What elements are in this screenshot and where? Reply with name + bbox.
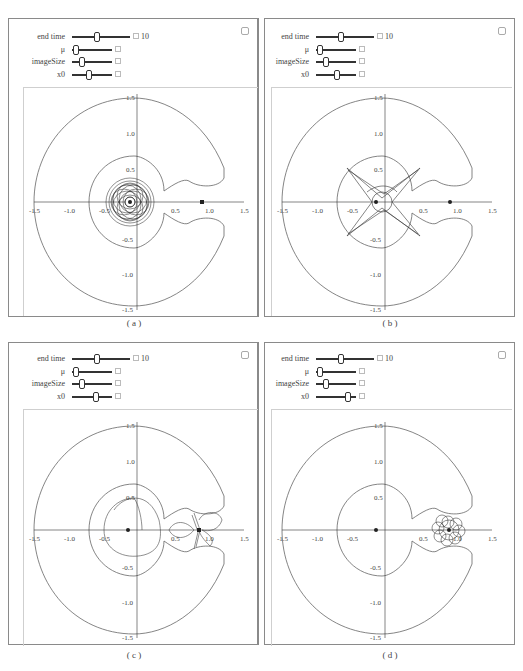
- end-time-value: 10: [141, 353, 149, 365]
- image-size-slider[interactable]: [316, 383, 356, 385]
- expand-button[interactable]: [115, 58, 121, 64]
- orbit-plot: -1.5 -1.0 -0.5 0.5 1.0 1.5 1.5 1.0 0.5 -…: [24, 410, 258, 646]
- x0-slider[interactable]: [316, 396, 356, 398]
- expand-button[interactable]: [359, 58, 365, 64]
- mu-label: μ: [15, 44, 65, 56]
- end-time-slider[interactable]: [316, 36, 374, 38]
- tick-label: -1.5: [370, 306, 382, 314]
- expand-button[interactable]: [359, 368, 365, 374]
- tick-label: 0.5: [419, 207, 428, 215]
- expand-button[interactable]: [133, 33, 139, 39]
- tick-label: -1.0: [370, 271, 382, 279]
- expand-button[interactable]: [359, 46, 365, 52]
- x0-label: x0: [15, 69, 65, 81]
- image-size-control: imageSize: [259, 56, 499, 68]
- x0-slider[interactable]: [72, 396, 112, 398]
- mu-control: μ: [15, 44, 255, 56]
- expand-button[interactable]: [115, 71, 121, 77]
- slider-thumb[interactable]: [86, 70, 92, 80]
- mu-control: μ: [259, 366, 499, 378]
- panel-a: end time 10 μ imageSize x0: [8, 18, 259, 317]
- tick-label: 0.5: [171, 207, 180, 215]
- expand-button[interactable]: [359, 393, 365, 399]
- slider-thumb[interactable]: [73, 45, 79, 55]
- tick-label: -0.5: [99, 535, 111, 543]
- image-size-label: imageSize: [15, 56, 65, 68]
- slider-thumb[interactable]: [94, 32, 100, 42]
- end-time-label: end time: [259, 31, 309, 43]
- slider-thumb[interactable]: [73, 367, 79, 377]
- slider-thumb[interactable]: [345, 392, 351, 402]
- image-size-slider[interactable]: [72, 383, 112, 385]
- mu-slider[interactable]: [316, 49, 356, 51]
- mu-slider[interactable]: [316, 371, 356, 373]
- tick-label: 1.0: [453, 207, 462, 215]
- x0-control: x0: [259, 69, 499, 81]
- mu-slider[interactable]: [72, 371, 112, 373]
- expand-button[interactable]: [115, 380, 121, 386]
- tick-label: -1.5: [277, 207, 289, 215]
- caption-c: ( c ): [114, 650, 154, 660]
- tick-label: -1.5: [370, 634, 382, 642]
- tick-label: -1.0: [122, 271, 134, 279]
- end-time-label: end time: [15, 353, 65, 365]
- image-size-slider[interactable]: [316, 61, 356, 63]
- end-time-slider[interactable]: [72, 36, 130, 38]
- expand-button[interactable]: [377, 355, 383, 361]
- image-size-label: imageSize: [259, 378, 309, 390]
- end-time-slider[interactable]: [316, 358, 374, 360]
- image-size-slider[interactable]: [72, 61, 112, 63]
- tick-label: 0.5: [374, 494, 383, 502]
- x0-slider[interactable]: [72, 74, 112, 76]
- expand-button[interactable]: [377, 33, 383, 39]
- tick-label: -0.5: [122, 236, 134, 244]
- slider-thumb[interactable]: [93, 392, 99, 402]
- tick-label: 1.0: [126, 130, 135, 138]
- x0-slider[interactable]: [316, 74, 356, 76]
- slider-thumb[interactable]: [338, 354, 344, 364]
- expand-button[interactable]: [115, 368, 121, 374]
- slider-thumb[interactable]: [323, 57, 329, 67]
- slider-thumb[interactable]: [323, 379, 329, 389]
- slider-thumb[interactable]: [94, 354, 100, 364]
- slider-thumb[interactable]: [334, 70, 340, 80]
- tick-label: 0.5: [126, 166, 135, 174]
- caption-b: ( b ): [370, 318, 410, 328]
- tick-label: -1.5: [29, 535, 41, 543]
- mu-label: μ: [15, 366, 65, 378]
- end-time-control: end time 10: [259, 353, 499, 365]
- slider-thumb[interactable]: [317, 367, 323, 377]
- tick-label: -1.5: [122, 634, 134, 642]
- expand-button[interactable]: [115, 393, 121, 399]
- caption-a: ( a ): [114, 318, 154, 328]
- tick-label: 1.5: [374, 94, 383, 102]
- tick-label: -0.5: [347, 207, 359, 215]
- tick-label: -1.0: [64, 535, 76, 543]
- tick-label: 1.5: [374, 422, 383, 430]
- tick-label: -0.5: [347, 535, 359, 543]
- end-time-slider[interactable]: [72, 358, 130, 360]
- tick-label: 1.5: [488, 535, 497, 543]
- end-time-control: end time 10: [15, 353, 255, 365]
- tick-label: 1.0: [126, 458, 135, 466]
- plot-area: -1.5 -1.0 -0.5 0.5 1.0 1.5 1.5 1.0 0.5 -…: [271, 87, 512, 316]
- mu-slider[interactable]: [72, 49, 112, 51]
- slider-thumb[interactable]: [338, 32, 344, 42]
- expand-button[interactable]: [115, 46, 121, 52]
- tick-label: -1.0: [64, 207, 76, 215]
- expand-button[interactable]: [133, 355, 139, 361]
- end-time-control: end time 10: [259, 31, 499, 43]
- panel-b: end time 10 μ imageSize x0: [264, 18, 515, 317]
- expand-button[interactable]: [359, 380, 365, 386]
- tick-label: -0.5: [370, 236, 382, 244]
- tick-label: 1.0: [205, 207, 214, 215]
- slider-thumb[interactable]: [79, 379, 85, 389]
- orbit-plot: -1.5 -1.0 -0.5 0.5 1.0 1.5 1.5 1.0 0.5 -…: [272, 88, 512, 316]
- slider-thumb[interactable]: [79, 57, 85, 67]
- tick-label: -1.0: [312, 535, 324, 543]
- mu-label: μ: [259, 366, 309, 378]
- tick-label: -0.5: [122, 564, 134, 572]
- x0-label: x0: [259, 391, 309, 403]
- expand-button[interactable]: [359, 71, 365, 77]
- slider-thumb[interactable]: [317, 45, 323, 55]
